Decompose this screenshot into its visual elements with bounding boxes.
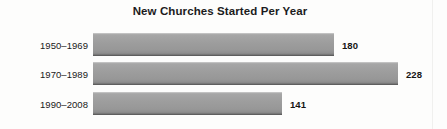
- category-label-1970-1989: 1970–1989: [0, 69, 88, 80]
- bar-1990-2008: [93, 92, 282, 115]
- category-label-1950-1969: 1950–1969: [0, 40, 88, 51]
- table-row: 1970–1989 228: [0, 62, 447, 86]
- bar-track-2: 228: [93, 62, 447, 86]
- bar-chart: New Churches Started Per Year 1950–1969 …: [0, 0, 447, 129]
- value-label-1990-2008: 141: [290, 99, 306, 110]
- bar-track-1: 180: [93, 33, 447, 57]
- value-label-1950-1969: 180: [342, 40, 358, 51]
- bar-track-3: 141: [93, 92, 447, 116]
- value-label-1970-1989: 228: [406, 69, 422, 80]
- plot-area: 1950–1969 180 1970–1989 228 1990–2008 14…: [0, 28, 447, 129]
- category-label-1990-2008: 1990–2008: [0, 99, 88, 110]
- chart-title: New Churches Started Per Year: [0, 5, 440, 17]
- bar-1970-1989: [93, 62, 398, 85]
- table-row: 1990–2008 141: [0, 92, 447, 116]
- table-row: 1950–1969 180: [0, 33, 447, 57]
- bar-1950-1969: [93, 33, 334, 56]
